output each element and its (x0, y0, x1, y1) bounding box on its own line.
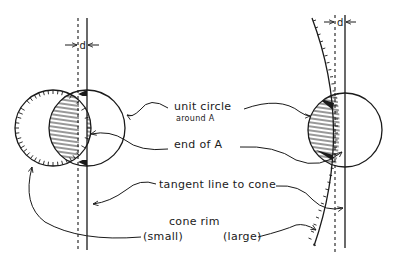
small-rim-leader (29, 167, 141, 238)
right-d-indicator: d (324, 17, 356, 28)
right-d-label: d (337, 17, 343, 28)
unit-circle-leader-left (127, 102, 168, 115)
left-d-indicator: d (65, 40, 99, 51)
small-label: (small) (143, 230, 183, 243)
large-label: (large) (223, 230, 262, 243)
end-of-a-label: end of A (174, 138, 222, 151)
tangent-leader-left (93, 182, 156, 204)
end-of-a-leader-left (91, 133, 168, 150)
left-d-label: d (80, 40, 86, 51)
unit-circle-label: unit circle (174, 100, 231, 113)
unit-circle-leader-right (244, 103, 310, 116)
left-figure: d (15, 18, 125, 252)
around-a-label: around A (176, 114, 215, 123)
cone-rim-label: cone rim (169, 215, 220, 228)
diagram-canvas: d (0, 0, 400, 264)
large-rim-leader (258, 225, 316, 237)
tangent-line-label: tangent line to cone (159, 178, 276, 191)
right-figure: d (300, 15, 382, 252)
tangent-leader-right (276, 186, 343, 209)
right-shaded-region (300, 80, 345, 180)
